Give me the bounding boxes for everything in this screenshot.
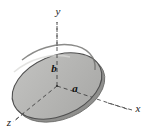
- semi-minor-axis-label: b: [51, 62, 57, 74]
- origin-point: [56, 85, 58, 87]
- z-axis-tail: [13, 113, 24, 122]
- y-axis-label: y: [55, 5, 61, 17]
- x-axis-label: x: [135, 102, 141, 114]
- figure-canvas: y x z b a: [0, 0, 150, 136]
- semi-major-axis-label: a: [72, 82, 78, 94]
- diagram-svg: y x z b a: [0, 0, 150, 136]
- z-axis-label: z: [6, 116, 12, 128]
